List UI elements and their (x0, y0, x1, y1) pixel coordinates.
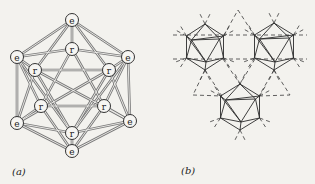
figure-canvas: eeeeeerrrrrr (a) (b) (0, 0, 315, 184)
bond-stub (240, 74, 245, 84)
icosahedron-edge (221, 100, 226, 118)
network-dashed-edge (223, 59, 240, 84)
icosahedron-edge (256, 99, 260, 118)
icosahedron-edge (192, 24, 206, 40)
vertex-node-e3: e (122, 51, 135, 64)
vertex-node-e5: e (124, 115, 137, 128)
vertex-node-e2: e (11, 51, 24, 64)
network-dashed-edge (193, 70, 205, 95)
icosahedron-edge (290, 38, 294, 58)
panel-a-label: (a) (12, 166, 26, 177)
vertex-node-r4: r (35, 100, 48, 113)
vertex-label: e (14, 53, 19, 63)
vertex-label: e (69, 16, 74, 26)
icosahedron-edge (187, 24, 206, 36)
panel-b-network: (b) (173, 10, 307, 176)
vertex-label: e (14, 119, 19, 129)
icosahedron-edge (255, 39, 260, 58)
vertex-label: r (70, 45, 75, 55)
bond-stub (200, 14, 205, 24)
vertex-label: r (107, 66, 112, 76)
icosahedron-edge (274, 62, 275, 70)
icosahedron-edge (240, 122, 241, 130)
bond-stub (269, 70, 274, 80)
bond-stub (200, 70, 205, 80)
icosahedron-edge (187, 40, 192, 58)
vertex-label: r (33, 66, 38, 76)
vertex-label: r (70, 129, 75, 139)
icosahedron-edge (274, 23, 294, 35)
bond-stub (274, 13, 279, 23)
vertex-label: e (127, 117, 132, 127)
vertex-node-r2: r (29, 64, 42, 77)
vertex-label: e (69, 147, 74, 157)
network-dashed-edge (193, 95, 222, 96)
icosahedron-edge (205, 62, 206, 70)
vertex-node-e1: e (66, 14, 79, 27)
vertex-node-e4: e (11, 117, 24, 130)
bond-stub (205, 70, 210, 80)
network-dashed-edge (274, 70, 290, 95)
bond-stub (205, 14, 210, 24)
icosahedron-edge (220, 39, 224, 58)
bond-stub (240, 130, 245, 140)
bond-stub (235, 74, 240, 84)
panel-a-icosahedron: eeeeeerrrrrr (a) (11, 14, 137, 178)
bond-stub (274, 70, 279, 80)
vertex-node-e6: e (66, 145, 79, 158)
vertex-node-r3: r (103, 64, 116, 77)
vertex-node-r1: r (66, 43, 79, 56)
vertex-label: r (39, 102, 44, 112)
vertex-node-r6: r (66, 127, 79, 140)
bond-stub (235, 130, 240, 140)
vertex-node-r5: r (98, 100, 111, 113)
vertex-label: e (125, 53, 130, 63)
icosahedron-edge (241, 99, 256, 122)
vertex-label: r (102, 102, 107, 112)
network-dashed-edge (238, 10, 254, 35)
rod-edge-highlight (72, 121, 130, 151)
panel-b-label: (b) (181, 165, 195, 176)
icosahedron-edge (275, 38, 290, 62)
network-dashed-edge (259, 95, 290, 96)
rod-edge-highlight (109, 70, 130, 121)
icosahedron-edge (240, 84, 260, 96)
icosahedron-edge (206, 39, 220, 62)
network-dashed-edge (240, 59, 255, 84)
network-dashed-edge (224, 10, 238, 35)
bond-stub (269, 13, 274, 23)
